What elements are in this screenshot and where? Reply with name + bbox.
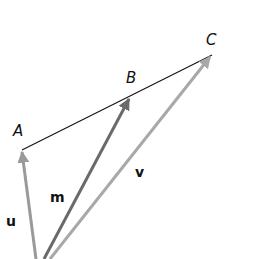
vector-v-label: v bbox=[135, 164, 144, 180]
point-a-label: A bbox=[12, 122, 23, 140]
point-c-label: C bbox=[206, 31, 217, 49]
vector-v-arrow bbox=[50, 57, 210, 259]
vector-m-arrow bbox=[44, 99, 129, 259]
vector-u-arrow bbox=[22, 152, 36, 259]
vector-diagram: A B C u m v bbox=[0, 0, 256, 259]
vector-u-label: u bbox=[6, 213, 16, 229]
segment-ac bbox=[22, 55, 212, 150]
point-b-label: B bbox=[126, 69, 136, 87]
vector-m-label: m bbox=[50, 189, 65, 205]
